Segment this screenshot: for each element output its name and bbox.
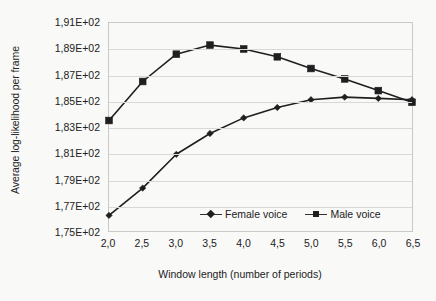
- data-point-marker: [240, 115, 246, 121]
- x-axis-title: Window length (number of periods): [60, 268, 420, 280]
- data-point-marker: [308, 65, 315, 72]
- y-axis-title: Average log-likelihood per frame: [0, 0, 30, 240]
- data-point-marker: [341, 94, 347, 100]
- data-point-marker: [375, 87, 382, 94]
- chart-figure: Average log-likelihood per frame 1,91E+0…: [0, 0, 436, 301]
- y-axis-tick-label: 1,85E+02: [55, 95, 100, 107]
- series-male-voice: [106, 42, 416, 124]
- y-axis-title-text: Average log-likelihood per frame: [9, 46, 21, 194]
- legend-label-male-voice: Male voice: [330, 208, 380, 220]
- series-line: [109, 97, 412, 215]
- gridline: [109, 49, 412, 50]
- y-axis-tick-label: 1,83E+02: [55, 121, 100, 133]
- series-line: [109, 45, 412, 120]
- gridline: [109, 76, 412, 77]
- gridline: [109, 154, 412, 155]
- legend-marker-square-icon: [305, 209, 327, 219]
- y-axis-tick-labels: 1,91E+021,89E+021,87E+021,85E+021,83E+02…: [28, 22, 104, 232]
- data-point-marker: [274, 53, 281, 60]
- x-axis-tick-label: 6,5: [406, 237, 421, 249]
- y-axis-tick-label: 1,89E+02: [55, 42, 100, 54]
- gridline: [109, 128, 412, 129]
- legend-item-female-voice: Female voice: [200, 208, 287, 220]
- data-point-marker: [207, 42, 214, 49]
- x-axis-tick-label: 4,5: [270, 237, 285, 249]
- x-axis-tick-label: 3,0: [168, 237, 183, 249]
- x-axis-tick-label: 4,0: [236, 237, 251, 249]
- chart-legend: Female voice Male voice: [196, 203, 385, 225]
- gridline: [109, 102, 412, 103]
- data-point-marker: [139, 78, 146, 85]
- series-female-voice: [106, 94, 415, 219]
- series-layer: [109, 23, 412, 231]
- x-axis-tick-labels: 2,02,53,03,54,04,55,05,56,06,5: [0, 237, 436, 253]
- x-axis-tick-label: 3,5: [202, 237, 217, 249]
- data-point-marker: [173, 51, 180, 58]
- y-axis-tick-label: 1,81E+02: [55, 147, 100, 159]
- x-axis-tick-label: 5,0: [304, 237, 319, 249]
- y-axis-tick-label: 1,91E+02: [55, 16, 100, 28]
- legend-item-male-voice: Male voice: [305, 208, 380, 220]
- x-axis-tick-label: 5,5: [338, 237, 353, 249]
- x-axis-tick-label: 2,5: [135, 237, 150, 249]
- gridline: [109, 181, 412, 182]
- legend-marker-diamond-icon: [200, 209, 222, 219]
- data-point-marker: [106, 117, 113, 124]
- y-axis-tick-label: 1,77E+02: [55, 200, 100, 212]
- data-point-marker: [375, 95, 381, 101]
- y-axis-tick-label: 1,79E+02: [55, 174, 100, 186]
- y-axis-tick-label: 1,87E+02: [55, 69, 100, 81]
- legend-label-female-voice: Female voice: [225, 208, 287, 220]
- x-axis-tick-label: 2,0: [101, 237, 116, 249]
- x-axis-tick-label: 6,0: [372, 237, 387, 249]
- plot-area: [108, 22, 413, 232]
- data-point-marker: [274, 104, 280, 110]
